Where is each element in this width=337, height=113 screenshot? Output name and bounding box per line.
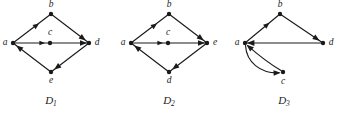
edge-b-to-d-d3 <box>280 14 323 43</box>
vertex-label-c: c <box>48 27 53 37</box>
caption-D2-sub: 2 <box>171 98 175 107</box>
vertex-label-a: a <box>3 37 8 47</box>
edge-e-to-a <box>13 43 51 72</box>
digraphs-svg: a b c d e D1 <box>0 0 337 113</box>
caption-D1-base: D <box>44 94 53 106</box>
vertex-a <box>11 41 15 45</box>
diagram-D3: a b d c D3 <box>235 0 334 107</box>
vertex-label-b: b <box>49 0 54 9</box>
edge-a-to-b <box>13 14 51 43</box>
diagram-D2: a b c e d D2 <box>121 0 217 107</box>
diagram-D1: a b c d e D1 <box>3 0 100 107</box>
vertex-label-b-d3: b <box>278 0 283 9</box>
edge-d-to-a-d2 <box>131 43 169 72</box>
caption-D2-base: D <box>162 94 171 106</box>
vertex-label-d: d <box>95 37 100 47</box>
edge-b-to-e-d2 <box>169 14 207 43</box>
edge-c-to-a-curved-d3 <box>245 43 281 71</box>
caption-D3-sub: 3 <box>285 98 290 107</box>
vertex-b <box>49 12 53 16</box>
vertex-label-d-d2: d <box>167 75 172 85</box>
vertex-a-d3 <box>243 41 247 45</box>
edge-a-to-b-d3 <box>245 14 280 43</box>
vertex-c <box>48 41 52 45</box>
edge-e-to-d-d2 <box>169 43 207 72</box>
figure-three-digraphs: a b c d e D1 <box>0 0 337 113</box>
vertex-d-d2 <box>167 70 171 74</box>
arrowhead-a-c-d2 <box>157 41 163 46</box>
edge-d-to-e <box>51 43 89 72</box>
vertex-b-d3 <box>278 12 282 16</box>
arrowhead-a-c-d3 <box>273 70 280 76</box>
vertex-label-e: e <box>49 75 53 85</box>
vertex-label-e-d2: e <box>213 37 217 47</box>
caption-D3: D3 <box>277 94 290 108</box>
vertex-e-d2 <box>205 41 209 45</box>
vertex-label-b-d2: b <box>167 0 172 9</box>
edge-line-a-b-d3 <box>245 14 280 43</box>
edge-b-to-d <box>51 14 89 43</box>
edge-d-to-a-d3 <box>245 40 323 46</box>
vertex-label-a-d3: a <box>235 37 240 47</box>
vertex-d <box>87 41 91 45</box>
vertex-c-d3 <box>281 70 285 74</box>
caption-D1: D1 <box>44 94 57 108</box>
caption-D1-sub: 1 <box>53 98 57 107</box>
arc-c-to-a <box>248 46 281 71</box>
vertex-d-d3 <box>321 41 325 45</box>
vertex-e <box>49 70 53 74</box>
vertex-b-d2 <box>167 12 171 16</box>
vertex-a-d2 <box>129 41 133 45</box>
arrowhead-b-d-d3 <box>312 34 321 43</box>
vertex-c-d2 <box>166 41 170 45</box>
edge-line-a-b <box>13 14 51 43</box>
vertex-label-d-d3: d <box>329 37 334 47</box>
caption-D2: D2 <box>162 94 175 108</box>
vertex-label-a-d2: a <box>121 37 126 47</box>
vertex-label-c-d3: c <box>281 76 286 86</box>
edge-a-to-b-d2 <box>131 14 169 43</box>
caption-D3-base: D <box>277 94 286 106</box>
edge-line-a-b-d2 <box>131 14 169 43</box>
arrowhead-a-c <box>39 41 45 46</box>
vertex-label-c-d2: c <box>166 27 171 37</box>
